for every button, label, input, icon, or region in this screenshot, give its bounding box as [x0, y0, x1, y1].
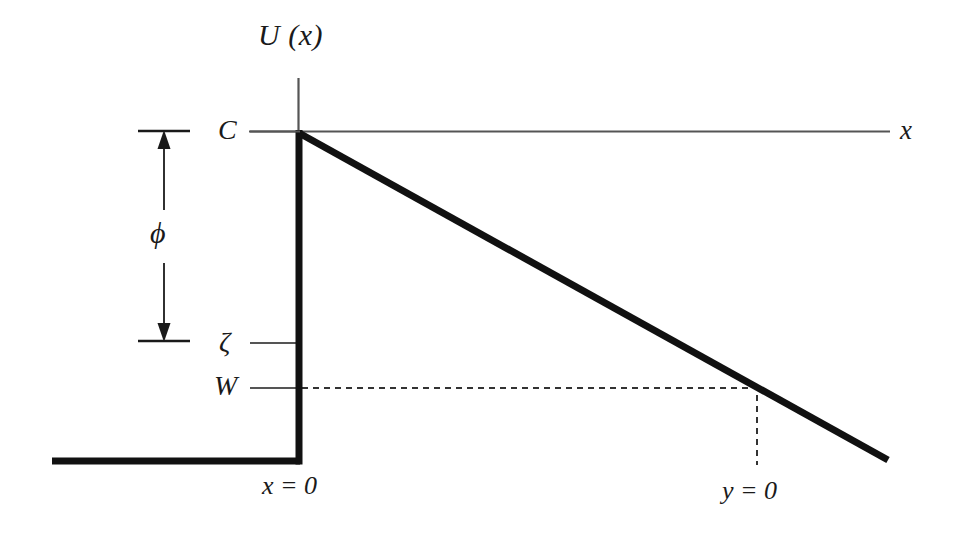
phi-down-arrowhead — [158, 323, 171, 342]
x-axis-label: x — [900, 117, 912, 144]
vertical-axis-label: U (x) — [258, 20, 323, 50]
level-c-label: C — [218, 116, 237, 144]
origin-label: x = 0 — [262, 473, 317, 499]
phi-up-arrowhead — [158, 130, 171, 149]
potential-slope-line — [299, 133, 888, 460]
potential-energy-figure: U (x) x C ϕ ζ W x = 0 y = 0 — [0, 0, 959, 540]
w-guide-dashed-line — [302, 388, 757, 465]
level-zeta-label: ζ — [219, 328, 230, 356]
level-w-label: W — [214, 372, 237, 400]
figure-canvas — [0, 0, 959, 540]
barrier-height-label: ϕ — [150, 218, 166, 248]
y-zero-label: y = 0 — [722, 478, 777, 504]
